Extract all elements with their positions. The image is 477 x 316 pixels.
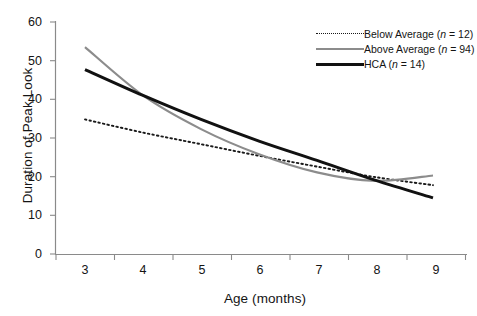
legend-item-hca: HCA (n = 14) <box>316 56 472 71</box>
legend-swatch-black-line <box>316 59 364 69</box>
series-line-hca <box>85 70 433 198</box>
chart-legend: Below Average (n = 12) Above Average (n … <box>316 26 472 71</box>
chart-figure: 60 50 40 30 20 10 0 3 4 5 6 7 8 9 Durati… <box>0 0 477 316</box>
xtick-label-6: 6 <box>245 263 275 277</box>
legend-label-below-average: Below Average (n = 12) <box>364 28 473 40</box>
y-axis-title: Duration of Peak Look <box>20 26 35 246</box>
legend-label-hca: HCA (n = 14) <box>364 58 425 70</box>
legend-text-above-average: Above Average <box>364 43 435 55</box>
xtick-label-8: 8 <box>362 263 392 277</box>
x-axis-title: Age (months) <box>55 291 475 306</box>
xtick-label-7: 7 <box>304 263 334 277</box>
legend-label-above-average: Above Average (n = 94) <box>364 43 474 55</box>
series-line-below-average <box>85 119 433 185</box>
xtick-label-3: 3 <box>70 263 100 277</box>
legend-swatch-dotted <box>316 29 364 39</box>
legend-n-value-2: = 14) <box>398 58 425 70</box>
legend-swatch-gray-line <box>316 44 364 54</box>
xtick-label-5: 5 <box>187 263 217 277</box>
xtick-label-4: 4 <box>128 263 158 277</box>
y-axis-ticks <box>50 22 55 254</box>
legend-text-below-average: Below Average <box>364 28 434 40</box>
legend-item-below-average: Below Average (n = 12) <box>316 26 472 41</box>
legend-n-value-0: = 12) <box>446 28 473 40</box>
legend-text-hca: HCA <box>364 58 386 70</box>
legend-item-above-average: Above Average (n = 94) <box>316 41 472 56</box>
legend-n-value-1: = 94) <box>447 43 474 55</box>
xtick-label-9: 9 <box>421 263 451 277</box>
ytick-label-0: 0 <box>12 247 42 261</box>
